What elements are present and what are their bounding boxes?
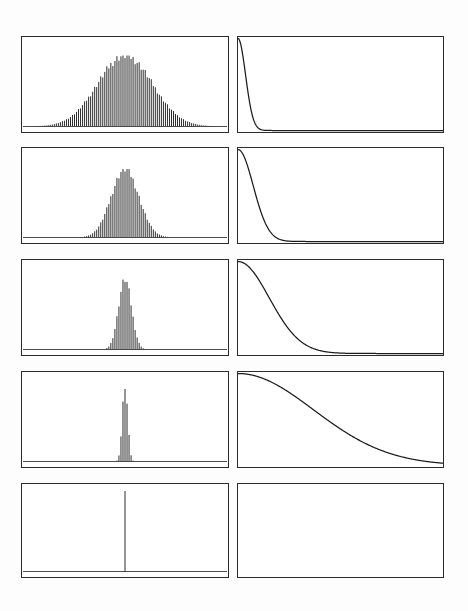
- decay-canvas-2: [238, 148, 443, 243]
- panel-grid: [0, 0, 468, 611]
- histogram-panel-5[interactable]: [21, 483, 229, 578]
- plot-row-3: [0, 259, 468, 356]
- decay-canvas-1: [238, 37, 443, 132]
- plot-row-5: [0, 483, 468, 578]
- decay-canvas-3: [238, 260, 443, 355]
- histogram-canvas-5: [22, 484, 228, 577]
- decay-canvas-4: [238, 372, 443, 467]
- figure-root: [0, 0, 468, 611]
- plot-row-2: [0, 147, 468, 244]
- histogram-canvas-3: [22, 260, 228, 355]
- decay-panel-4[interactable]: [237, 371, 444, 468]
- histogram-panel-4[interactable]: [21, 371, 229, 468]
- decay-canvas-5: [238, 484, 443, 577]
- decay-panel-5[interactable]: [237, 483, 444, 578]
- histogram-canvas-2: [22, 148, 228, 243]
- decay-panel-3[interactable]: [237, 259, 444, 356]
- histogram-canvas-1: [22, 37, 228, 132]
- decay-panel-2[interactable]: [237, 147, 444, 244]
- histogram-panel-1[interactable]: [21, 36, 229, 133]
- histogram-panel-2[interactable]: [21, 147, 229, 244]
- histogram-canvas-4: [22, 372, 228, 467]
- plot-row-1: [0, 36, 468, 133]
- plot-row-4: [0, 371, 468, 468]
- histogram-panel-3[interactable]: [21, 259, 229, 356]
- decay-panel-1[interactable]: [237, 36, 444, 133]
